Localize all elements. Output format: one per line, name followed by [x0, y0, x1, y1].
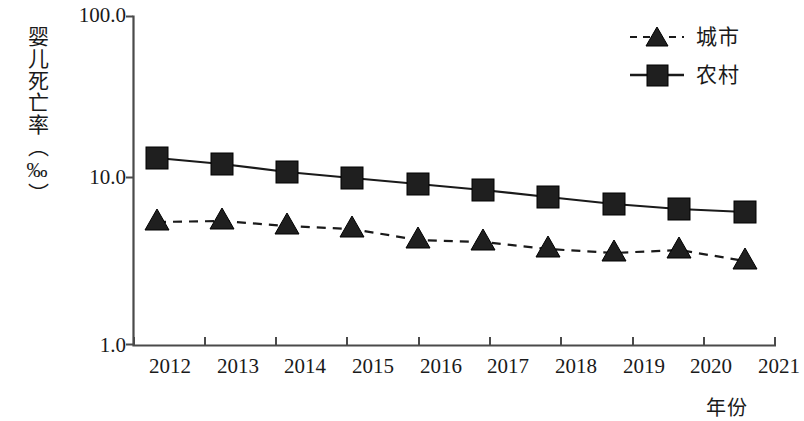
data-point-urban-2015: [340, 216, 364, 237]
series-rural: [146, 147, 756, 223]
data-point-rural-2014: [276, 161, 298, 183]
legend-key-urban: [628, 25, 686, 49]
data-point-rural-2021: [734, 201, 756, 223]
data-point-rural-2012: [146, 147, 168, 169]
data-point-rural-2013: [211, 153, 233, 175]
legend-label-rural: 农村: [696, 65, 740, 86]
data-point-urban-2016: [406, 227, 430, 248]
data-point-urban-2013: [210, 208, 234, 229]
data-point-rural-2020: [668, 198, 690, 220]
data-point-urban-2020: [667, 237, 691, 258]
data-point-rural-2017: [472, 179, 494, 201]
data-point-urban-2017: [471, 229, 495, 250]
data-point-rural-2016: [407, 173, 429, 195]
square-marker-icon: [628, 63, 686, 87]
legend-key-rural: [628, 63, 686, 87]
data-point-urban-2018: [536, 236, 560, 257]
legend-label-urban: 城市: [696, 27, 740, 48]
data-point-rural-2018: [537, 186, 559, 208]
data-point-urban-2012: [145, 209, 169, 230]
y-axis-ticks: [126, 17, 133, 345]
chart-legend: 城市 农村: [628, 18, 778, 94]
triangle-marker-icon: [628, 25, 686, 49]
legend-item-rural[interactable]: 农村: [628, 56, 778, 94]
series-urban: [145, 208, 757, 269]
legend-item-urban[interactable]: 城市: [628, 18, 778, 56]
data-point-urban-2014: [275, 213, 299, 234]
data-point-rural-2019: [603, 193, 625, 215]
rural-markers: [146, 147, 756, 223]
data-point-rural-2015: [341, 167, 363, 189]
urban-markers: [145, 208, 757, 269]
x-axis-ticks: [134, 337, 775, 345]
data-point-urban-2019: [602, 240, 626, 261]
